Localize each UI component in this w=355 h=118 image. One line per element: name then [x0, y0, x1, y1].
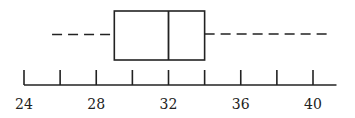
tick-label: 28: [87, 96, 105, 112]
tick-label: 24: [15, 96, 33, 112]
tick-label: 36: [232, 96, 250, 112]
number-line-axis: [24, 70, 336, 85]
box-plot: 2428323640: [0, 0, 355, 118]
interquartile-box: [114, 11, 204, 60]
axis-tick-labels: 2428323640: [15, 96, 322, 112]
box: [114, 11, 204, 60]
tick-label: 40: [304, 96, 322, 112]
whiskers: [52, 34, 327, 35]
tick-label: 32: [160, 96, 178, 112]
